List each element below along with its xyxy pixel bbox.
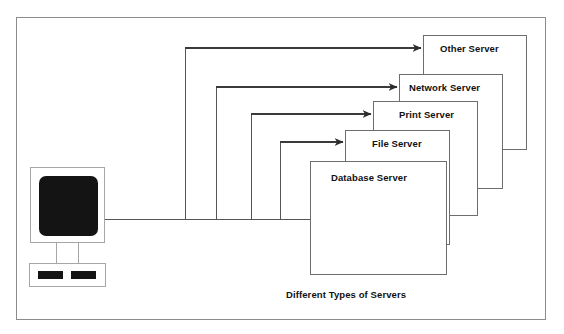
server-label-file-server: File Server (372, 138, 422, 149)
server-label-other-server: Other Server (440, 43, 499, 54)
diagram-caption: Different Types of Servers (286, 289, 406, 300)
monitor-stand (56, 243, 79, 264)
keyboard-key-block-left (38, 271, 63, 279)
server-label-database-server: Database Server (331, 172, 407, 183)
server-label-network-server: Network Server (409, 82, 480, 93)
computer-monitor (30, 167, 105, 243)
keyboard-key-block-right (71, 271, 96, 279)
server-label-print-server: Print Server (399, 109, 454, 120)
monitor-screen (39, 176, 98, 236)
computer-keyboard (29, 263, 106, 287)
diagram-canvas: Other Server Network Server Print Server… (0, 0, 564, 334)
